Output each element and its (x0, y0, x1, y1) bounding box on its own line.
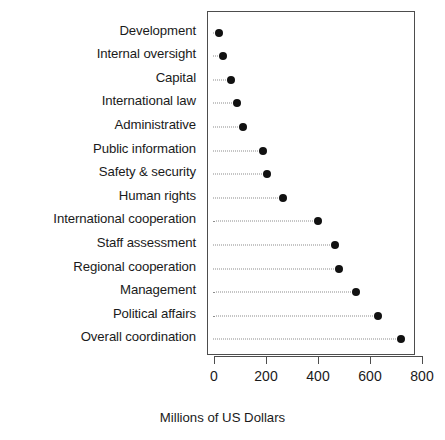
x-tick-label: 400 (306, 368, 329, 384)
x-tick-label: 0 (210, 368, 218, 384)
x-axis-title: Millions of US Dollars (0, 410, 445, 425)
data-point (352, 288, 360, 296)
leader-line (213, 150, 260, 151)
data-point (233, 99, 241, 107)
chart-page: DevelopmentInternal oversightCapitalInte… (0, 0, 445, 440)
leader-line (213, 339, 398, 340)
leader-line (213, 103, 234, 104)
data-point (227, 76, 235, 84)
category-label: Administrative (0, 118, 196, 132)
x-axis: 0200400600800 (207, 356, 415, 357)
leader-line (213, 174, 264, 175)
category-label: Human rights (0, 189, 196, 203)
x-tick (370, 356, 371, 364)
x-tick (214, 356, 215, 364)
category-label: International law (0, 94, 196, 108)
x-tick-label: 200 (254, 368, 277, 384)
data-point (239, 123, 247, 131)
data-point (219, 52, 227, 60)
data-point (279, 194, 287, 202)
category-label: Political affairs (0, 307, 196, 321)
x-tick-label: 600 (358, 368, 381, 384)
data-point (259, 147, 267, 155)
data-point (397, 335, 405, 343)
x-tick (266, 356, 267, 364)
leader-line (213, 315, 375, 316)
category-label: International cooperation (0, 212, 196, 226)
data-point (335, 265, 343, 273)
data-point (374, 312, 382, 320)
leader-line (213, 268, 336, 269)
category-label: Safety & security (0, 165, 196, 179)
leader-line (213, 126, 240, 127)
category-label: Public information (0, 142, 196, 156)
data-point (314, 217, 322, 225)
x-tick-label: 800 (410, 368, 433, 384)
category-label: Management (0, 283, 196, 297)
category-label: Staff assessment (0, 236, 196, 250)
plot-frame (207, 11, 415, 355)
leader-line (213, 197, 280, 198)
category-label: Internal oversight (0, 47, 196, 61)
category-label: Overall coordination (0, 330, 196, 344)
category-label: Regional cooperation (0, 260, 196, 274)
plot-area (208, 12, 414, 354)
category-label: Capital (0, 71, 196, 85)
data-point (215, 29, 223, 37)
x-tick (422, 356, 423, 364)
leader-line (213, 79, 228, 80)
y-axis-category-labels: DevelopmentInternal oversightCapitalInte… (0, 11, 196, 355)
data-point (331, 241, 339, 249)
leader-line (213, 244, 332, 245)
category-label: Development (0, 24, 196, 38)
x-tick (318, 356, 319, 364)
data-point (263, 170, 271, 178)
leader-line (213, 221, 315, 222)
leader-line (213, 292, 353, 293)
